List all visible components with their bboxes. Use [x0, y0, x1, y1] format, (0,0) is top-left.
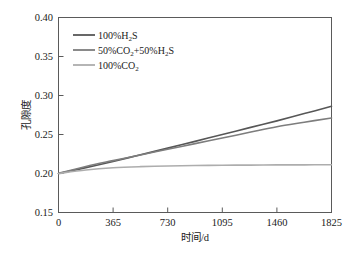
y-tick-label: 0.15 [35, 207, 53, 218]
legend: 100%H2S 50%CO2+50%H2S 100%CO2 [73, 30, 174, 74]
x-tick-label: 1460 [266, 217, 287, 228]
y-tick-labels: 0.15 0.20 0.25 0.30 0.35 0.40 [35, 12, 53, 218]
y-tick-label: 0.20 [35, 168, 53, 179]
x-tick-label: 730 [160, 217, 176, 228]
legend-label-100-h2s: 100%H2S [98, 30, 138, 44]
y-axis-ticks [59, 18, 64, 213]
x-tick-label: 1825 [321, 217, 342, 228]
x-tick-label: 365 [105, 217, 121, 228]
series-line-100-co2 [59, 165, 332, 174]
y-tick-label: 0.35 [35, 51, 53, 62]
porosity-vs-time-chart: 0.15 0.20 0.25 0.30 0.35 0.40 0 365 730 … [0, 0, 353, 253]
legend-label-50-co2-50-h2s: 50%CO2+50%H2S [98, 45, 174, 59]
y-tick-label: 0.40 [35, 12, 53, 23]
series-group [59, 106, 332, 173]
chart-container: 0.15 0.20 0.25 0.30 0.35 0.40 0 365 730 … [0, 0, 353, 253]
x-axis-ticks [59, 208, 332, 213]
x-axis-title: 时间/d [181, 231, 210, 243]
x-tick-labels: 0 365 730 1095 1460 1825 [56, 217, 342, 228]
y-axis-title: 孔隙度 [20, 99, 32, 130]
y-tick-label: 0.30 [35, 90, 53, 101]
legend-label-100-co2: 100%CO2 [98, 60, 139, 74]
x-tick-label: 0 [56, 217, 61, 228]
x-tick-label: 1095 [212, 217, 233, 228]
y-tick-label: 0.25 [35, 129, 53, 140]
